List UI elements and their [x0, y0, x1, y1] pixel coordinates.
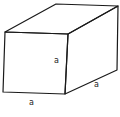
cuboid-diagram [0, 0, 120, 117]
height-label: a [54, 57, 59, 65]
side-face [65, 6, 118, 94]
depth-label: a [94, 81, 99, 89]
width-label: a [29, 99, 34, 107]
top-face [5, 4, 118, 34]
